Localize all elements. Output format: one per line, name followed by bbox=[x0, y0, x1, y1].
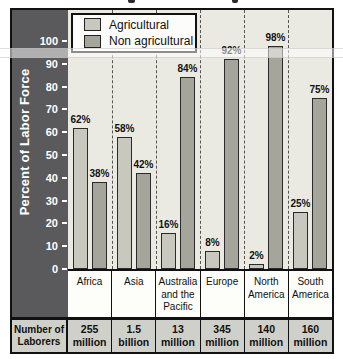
plot-area: Agricultural Non agricultural 62%38%58%4… bbox=[68, 10, 332, 269]
laborers-row-header: Number of Laborers bbox=[12, 320, 68, 352]
y-tick-label: 90 bbox=[46, 58, 58, 70]
non-agricultural-bar-africa bbox=[92, 182, 107, 269]
agricultural-bar-europe bbox=[205, 251, 220, 269]
legend-label-agricultural: Agricultural bbox=[109, 18, 169, 32]
non-agricultural-bar-north-america bbox=[268, 46, 283, 269]
chart-frame: Percent of Labor Force 01020304050607080… bbox=[10, 8, 334, 354]
y-tick-mark bbox=[62, 177, 67, 179]
non-agricultural-bar-asia bbox=[136, 173, 151, 269]
y-tick-60: 60 bbox=[12, 126, 68, 138]
agricultural-bar-asia bbox=[117, 137, 132, 269]
category-label-africa: Africa bbox=[68, 271, 111, 317]
non-agricultural-bar-south-america bbox=[312, 98, 327, 269]
y-tick-mark bbox=[62, 131, 67, 133]
y-tick-label: 50 bbox=[46, 149, 58, 161]
y-tick-30: 30 bbox=[12, 195, 68, 207]
legend: Agricultural Non agricultural bbox=[71, 13, 197, 53]
gridline bbox=[288, 10, 289, 269]
y-tick-mark bbox=[62, 245, 67, 247]
y-axis: Percent of Labor Force 01020304050607080… bbox=[12, 10, 68, 317]
y-tick-mark bbox=[62, 63, 67, 65]
laborers-row-values: 255 million1.5 billion13 million345 mill… bbox=[68, 320, 332, 352]
category-axis: AfricaAsiaAustralia and the PacificEurop… bbox=[68, 269, 332, 317]
y-tick-label: 100 bbox=[40, 35, 58, 47]
y-tick-label: 30 bbox=[46, 195, 58, 207]
cropped-title-fragment bbox=[232, 0, 238, 3]
category-label-asia: Asia bbox=[111, 271, 155, 317]
y-tick-mark bbox=[62, 222, 67, 224]
agricultural-bar-australia-and-the-pacific bbox=[161, 233, 176, 269]
y-tick-10: 10 bbox=[12, 240, 68, 252]
y-tick-label: 0 bbox=[52, 263, 58, 275]
y-tick-50: 50 bbox=[12, 149, 68, 161]
y-tick-20: 20 bbox=[12, 217, 68, 229]
agricultural-swatch bbox=[84, 18, 101, 31]
y-tick-100: 100 bbox=[12, 35, 68, 47]
y-tick-0: 0 bbox=[12, 263, 68, 275]
category-label-south-america: South America bbox=[288, 271, 332, 317]
bar-value-label: 84% bbox=[172, 63, 204, 75]
agricultural-bar-africa bbox=[73, 128, 88, 269]
y-tick-70: 70 bbox=[12, 103, 68, 115]
laborers-value: 1.5 billion bbox=[111, 320, 155, 352]
laborers-value: 13 million bbox=[155, 320, 199, 352]
y-tick-label: 70 bbox=[46, 103, 58, 115]
y-tick-label: 40 bbox=[46, 172, 58, 184]
laborers-value: 140 million bbox=[244, 320, 288, 352]
labor-force-chart-figure: Percent of Labor Force 01020304050607080… bbox=[0, 0, 343, 359]
y-tick-mark bbox=[62, 108, 67, 110]
y-tick-90: 90 bbox=[12, 58, 68, 70]
non-agricultural-bar-australia-and-the-pacific bbox=[180, 77, 195, 269]
gridline bbox=[200, 10, 201, 269]
y-tick-label: 20 bbox=[46, 217, 58, 229]
y-tick-mark bbox=[62, 40, 67, 42]
bar-value-label: 92% bbox=[216, 45, 248, 57]
laborers-value: 345 million bbox=[200, 320, 244, 352]
y-tick-label: 10 bbox=[46, 240, 58, 252]
y-tick-mark bbox=[62, 154, 67, 156]
y-tick-label: 80 bbox=[46, 81, 58, 93]
laborers-row: Number of Laborers 255 million1.5 billio… bbox=[12, 317, 332, 352]
legend-item-agricultural: Agricultural bbox=[84, 18, 195, 32]
legend-item-non-agricultural: Non agricultural bbox=[84, 34, 195, 48]
y-tick-80: 80 bbox=[12, 81, 68, 93]
y-tick-mark bbox=[62, 86, 67, 88]
bar-value-label: 62% bbox=[68, 114, 97, 126]
laborers-value: 160 million bbox=[288, 320, 332, 352]
y-tick-label: 60 bbox=[46, 126, 58, 138]
legend-label-non-agricultural: Non agricultural bbox=[109, 34, 193, 48]
y-tick-mark bbox=[62, 200, 67, 202]
agricultural-bar-south-america bbox=[293, 212, 308, 269]
non-agricultural-bar-europe bbox=[224, 59, 239, 269]
laborers-value: 255 million bbox=[68, 320, 111, 352]
category-label-north-america: North America bbox=[244, 271, 288, 317]
bar-value-label: 58% bbox=[109, 123, 141, 135]
non-agricultural-swatch bbox=[84, 35, 101, 48]
y-tick-mark bbox=[62, 268, 67, 270]
category-label-australia-and-the-pacific: Australia and the Pacific bbox=[155, 271, 199, 317]
bar-value-label: 75% bbox=[304, 84, 333, 96]
bar-value-label: 98% bbox=[260, 32, 292, 44]
cropped-title-fragment bbox=[128, 0, 135, 3]
bar-value-label: 42% bbox=[128, 159, 160, 171]
category-label-europe: Europe bbox=[200, 271, 244, 317]
bar-value-label: 38% bbox=[84, 168, 116, 180]
y-tick-40: 40 bbox=[12, 172, 68, 184]
